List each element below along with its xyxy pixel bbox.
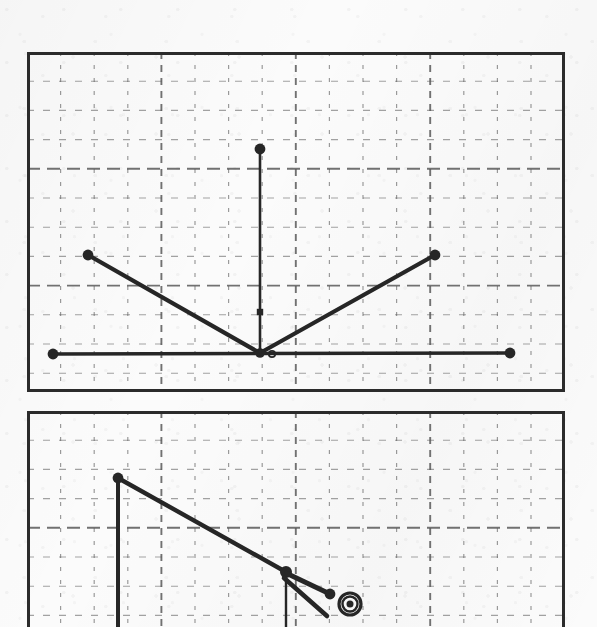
lower-plot-data: [113, 473, 361, 627]
series-line-v-shape-curve[interactable]: [88, 255, 435, 353]
series-v-shape-curve[interactable]: [83, 250, 441, 358]
series-line-upper-prong[interactable]: [288, 574, 330, 594]
series-line-descending-diagonal[interactable]: [118, 478, 286, 572]
upper-plot-grid: [27, 52, 565, 392]
ring-target-annotation[interactable]: [339, 593, 361, 615]
series-line-horizontal-baseline[interactable]: [53, 353, 510, 354]
upper-plot-data: [48, 144, 516, 360]
ring-center-dot: [347, 601, 354, 608]
data-point-marker[interactable]: [48, 349, 59, 360]
lower-plot-canvas: [27, 411, 565, 627]
series-horizontal-baseline[interactable]: [48, 348, 516, 360]
data-point-square-marker[interactable]: [257, 309, 263, 315]
series-descending-diagonal[interactable]: [113, 473, 292, 578]
data-point-marker[interactable]: [325, 589, 336, 600]
data-point-marker[interactable]: [255, 144, 266, 155]
upper-plot-canvas: [27, 52, 565, 392]
lower-plot-grid: [27, 411, 565, 627]
series-vertical-spike[interactable]: [255, 144, 266, 353]
lower-plot-panel: [27, 411, 565, 627]
data-point-marker[interactable]: [505, 348, 516, 359]
scanned-sheet: [0, 0, 597, 627]
data-point-marker[interactable]: [430, 250, 441, 261]
upper-plot-panel: [27, 52, 565, 392]
data-point-marker[interactable]: [83, 250, 94, 261]
